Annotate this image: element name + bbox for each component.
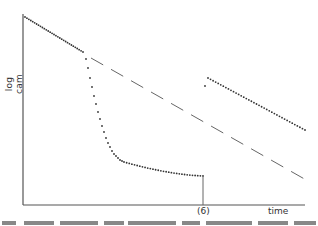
data-points — [24, 16, 306, 177]
y-axis-label: log cam — [4, 66, 24, 102]
chart-plot — [0, 0, 318, 226]
x-axis-label: time — [268, 206, 288, 216]
cut-off-caption — [0, 220, 318, 226]
x-tick-label-6: (6) — [197, 206, 210, 216]
